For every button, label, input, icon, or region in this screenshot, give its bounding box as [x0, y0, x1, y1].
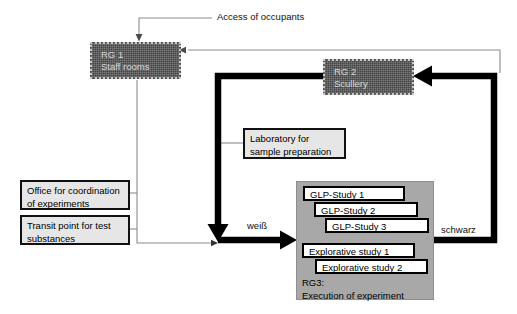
laboratory-line-1: Laboratory for	[250, 133, 344, 146]
study-explorative-1[interactable]: Explorative study 1	[302, 243, 415, 258]
room-box-rg2[interactable]: RG 2 Scullery	[323, 59, 414, 95]
connector-access-to-rg1	[136, 18, 212, 42]
rg1-code: RG 1	[101, 49, 179, 61]
study-explorative-2[interactable]: Explorative study 2	[315, 259, 428, 274]
access-of-occupants-label: Access of occupants	[217, 11, 304, 23]
label-box-transit-point[interactable]: Transit point for test substances	[20, 215, 130, 245]
rg3-caption-line-1: RG3:	[302, 277, 404, 290]
office-line-2: of experiments	[27, 198, 128, 211]
room-box-rg1[interactable]: RG 1 Staff rooms	[90, 42, 181, 79]
connector-rg1-to-experiment	[137, 80, 218, 246]
transit-line-2: substances	[27, 233, 128, 246]
rg3-caption: RG3: Execution of experiment	[302, 277, 404, 302]
study-glp-1[interactable]: GLP-Study 1	[303, 186, 405, 201]
flow-label-schwarz: schwarz	[441, 224, 476, 236]
study-glp-2[interactable]: GLP-Study 2	[314, 202, 418, 217]
flow-label-weiss: weiß	[247, 220, 267, 232]
rg3-caption-line-2: Execution of experiment	[302, 290, 404, 303]
label-box-laboratory[interactable]: Laboratory for sample preparation	[243, 128, 346, 159]
label-box-office-coordination[interactable]: Office for coordination of experiments	[20, 180, 130, 210]
transit-line-1: Transit point for test	[27, 220, 128, 233]
rg2-name: Scullery	[334, 78, 412, 90]
rg1-name: Staff rooms	[101, 61, 179, 73]
laboratory-line-2: sample preparation	[250, 146, 344, 159]
diagram-canvas: RG 1 Staff rooms RG 2 Scullery Laborator…	[0, 0, 517, 314]
study-glp-3[interactable]: GLP-Study 3	[325, 218, 429, 233]
rg2-code: RG 2	[334, 66, 412, 78]
office-line-1: Office for coordination	[27, 185, 128, 198]
